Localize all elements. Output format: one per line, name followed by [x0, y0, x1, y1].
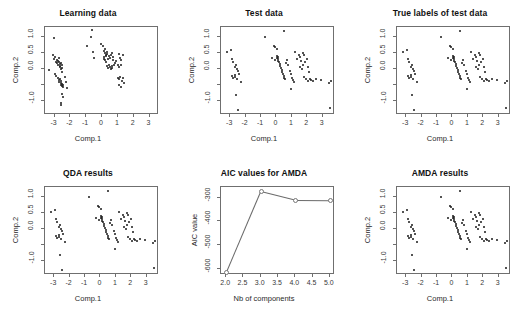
data-point — [488, 80, 490, 82]
y-tick-label: 0.0 — [22, 62, 40, 69]
line-segment — [260, 191, 295, 201]
x-tick-mark — [421, 274, 422, 277]
data-point — [104, 48, 106, 50]
data-point — [53, 58, 55, 60]
data-point — [154, 240, 156, 242]
data-point — [452, 208, 454, 210]
data-point — [118, 211, 120, 213]
y-axis-label: Comp.2 — [11, 57, 20, 83]
data-point — [462, 219, 464, 221]
data-point — [466, 88, 468, 90]
data-point — [413, 70, 415, 72]
y-tick-label-text: -1.0 — [28, 251, 35, 263]
data-point — [505, 267, 507, 269]
data-point — [476, 220, 478, 222]
data-point — [469, 81, 471, 83]
data-point — [407, 218, 409, 220]
data-point — [478, 64, 480, 66]
data-point — [60, 238, 62, 240]
y-tick-label-text: 0.0 — [379, 220, 386, 230]
data-point-marker — [328, 198, 333, 203]
data-point — [120, 86, 122, 88]
y-tick-mark — [393, 84, 396, 85]
data-point — [289, 70, 291, 72]
y-tick-mark — [217, 244, 220, 245]
data-point — [128, 221, 130, 223]
data-point — [144, 239, 146, 241]
y-axis-label: Comp.2 — [363, 57, 372, 83]
x-tick-mark — [482, 114, 483, 117]
data-point — [98, 219, 100, 221]
data-point — [315, 78, 317, 80]
data-point — [120, 59, 122, 61]
y-tick-label-text: -1.0 — [380, 91, 387, 103]
x-tick-mark — [436, 114, 437, 117]
data-point — [111, 224, 113, 226]
data-point — [462, 59, 464, 61]
y-tick-mark — [217, 100, 220, 101]
y-tick-mark — [217, 268, 220, 269]
data-point — [65, 81, 67, 83]
x-tick-mark — [242, 274, 243, 277]
data-point — [483, 240, 485, 242]
x-tick-mark — [229, 114, 230, 117]
x-tick-mark — [53, 274, 54, 277]
data-point — [477, 68, 479, 70]
data-point — [294, 51, 296, 53]
data-point — [58, 57, 60, 59]
data-point — [293, 81, 295, 83]
x-tick-mark — [69, 114, 70, 117]
y-tick-label-text: -1.0 — [204, 91, 211, 103]
y-tick-mark — [41, 84, 44, 85]
data-point — [287, 64, 289, 66]
data-point — [506, 80, 508, 82]
data-point — [112, 56, 114, 58]
x-axis-label: Comp.1 — [352, 294, 528, 303]
data-point — [307, 66, 309, 68]
y-tick-mark — [393, 260, 396, 261]
data-point — [491, 78, 493, 80]
data-point — [483, 226, 485, 228]
x-tick-mark — [312, 274, 313, 277]
data-point — [463, 224, 465, 226]
x-tick-mark — [149, 114, 150, 117]
data-point — [478, 224, 480, 226]
data-point — [475, 56, 477, 58]
panel-learning-data: Learning data-3-2-101231.00.50.0-1.0Comp… — [0, 0, 176, 160]
data-point — [62, 96, 64, 98]
data-point — [61, 67, 63, 69]
y-tick-label: -300 — [198, 191, 216, 198]
data-point — [122, 77, 124, 79]
x-tick-mark — [260, 114, 261, 117]
y-tick-label-text: 1.0 — [27, 188, 34, 198]
data-point — [413, 269, 415, 271]
x-tick-mark — [291, 114, 292, 117]
data-point — [459, 190, 461, 192]
data-point — [66, 87, 68, 89]
data-point — [450, 59, 452, 61]
plot-area — [220, 186, 334, 274]
y-tick-label: -1.0 — [374, 94, 392, 101]
data-point — [413, 230, 415, 232]
data-point — [238, 73, 240, 75]
data-point — [406, 209, 408, 211]
y-tick-label: -600 — [198, 262, 216, 269]
panel-aic-values-for-amda: AIC values for AMDA2.02.53.03.54.04.55.0… — [176, 160, 352, 320]
plot-area — [396, 26, 510, 114]
y-tick-label-text: -1.0 — [380, 251, 387, 263]
data-point — [105, 61, 107, 63]
data-point — [466, 73, 468, 75]
y-tick-label: 0.5 — [374, 46, 392, 53]
x-tick-mark — [451, 114, 452, 117]
x-tick-label: 3 — [486, 279, 510, 286]
data-point — [276, 48, 278, 50]
data-point — [480, 61, 482, 63]
data-point — [307, 80, 309, 82]
data-point — [61, 71, 63, 73]
data-point — [230, 49, 232, 51]
data-point — [48, 69, 50, 71]
data-point — [414, 233, 416, 235]
data-point — [312, 80, 314, 82]
data-point — [301, 68, 303, 70]
data-point — [303, 54, 305, 56]
